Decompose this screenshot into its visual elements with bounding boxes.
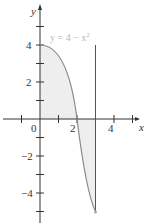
- equation-exponent: 2: [86, 31, 90, 39]
- y-tick-label-neg2: −2: [21, 150, 33, 162]
- endpoint-marker: [94, 211, 97, 214]
- y-tick-label-4: 4: [26, 39, 32, 51]
- y-axis-label: y: [30, 5, 36, 17]
- equation-label: y = 4 − x2: [50, 31, 90, 43]
- x-tick-label-2: 2: [70, 122, 76, 134]
- graph-canvas: y x y = 4 − x2 0 2 4 4 2 −2 −4: [0, 0, 145, 223]
- y-tick-label-neg4: −4: [21, 187, 33, 199]
- equation-text: y = 4 − x: [50, 32, 86, 43]
- y-axis-arrow-icon: [38, 4, 42, 10]
- x-axis-label: x: [138, 121, 144, 133]
- x-tick-label-0: 0: [31, 122, 37, 134]
- x-tick-label-4: 4: [108, 122, 114, 134]
- y-tick-label-2: 2: [26, 76, 32, 88]
- shaded-region: [40, 45, 96, 212]
